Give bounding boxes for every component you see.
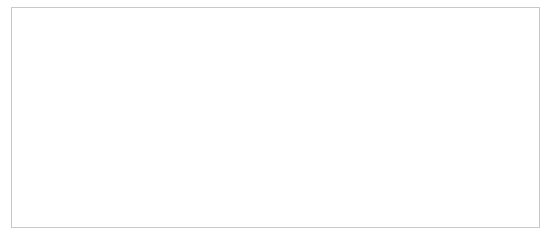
figure-border: [11, 7, 540, 228]
page-root: [0, 0, 544, 247]
